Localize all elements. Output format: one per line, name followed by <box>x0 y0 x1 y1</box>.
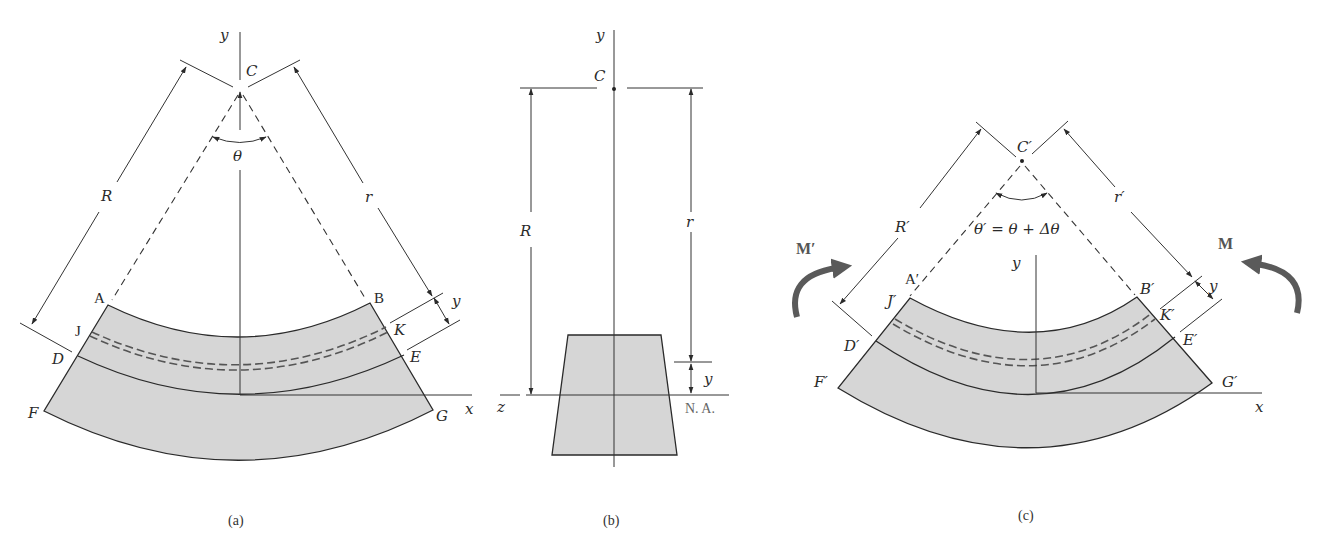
z-axis-label: z <box>496 398 505 416</box>
panel-b: y C R r y z N. A. (b) <box>496 26 729 529</box>
point-label-D: D <box>51 350 64 368</box>
angle-theta-arc <box>213 137 266 143</box>
dim-r-a-top <box>294 67 363 183</box>
moment-label-m-prime: M′ <box>796 240 816 257</box>
curved-beam-figure: y C θ R r y A B J K D E F G x (a) <box>0 0 1332 540</box>
center-point-c-prime <box>1020 159 1024 163</box>
neutral-axis-label: N. A. <box>685 401 715 416</box>
ext-line-e <box>407 320 460 350</box>
point-label-J: J <box>75 323 81 339</box>
point-label-K: K <box>393 321 406 339</box>
dim-label-rprime: r′ <box>1114 188 1125 206</box>
panel-c: C′ R′ r′ θ′ = θ + Δθ M′ M y y A′ B′ J′ K… <box>795 121 1299 524</box>
radial-line-ca <box>112 95 238 300</box>
angle-label-theta: θ <box>233 147 242 165</box>
dim-r-a-bottom <box>378 208 432 296</box>
dim-y-a <box>434 298 449 324</box>
panel-a: y C θ R r y A B J K D E F G x (a) <box>20 26 474 529</box>
y-axis-label-c: y <box>1011 254 1021 272</box>
ext-line-d <box>20 323 72 352</box>
dim-R-a-bottom <box>32 212 99 324</box>
ext-line-eprime <box>1180 299 1222 332</box>
ext-line-cprime-right <box>1032 121 1068 154</box>
x-axis-label-a: x <box>465 400 474 418</box>
dim-label-Rprime: R′ <box>894 218 910 236</box>
point-label-D-prime: D′ <box>843 337 860 355</box>
dim-label-y-b: y <box>703 370 713 388</box>
angle-theta-prime-arc <box>996 193 1047 200</box>
center-label-c-prime: C′ <box>1017 138 1032 156</box>
moment-arrow-m <box>1257 264 1299 313</box>
dim-label-R-a: R <box>100 187 112 205</box>
moment-arrow-m-prime <box>795 268 836 317</box>
y-axis-label-b: y <box>595 26 605 44</box>
moment-label-m: M <box>1218 235 1233 252</box>
caption-a: (a) <box>228 513 244 529</box>
dim-Rprime-top <box>920 129 981 208</box>
x-axis-label-c: x <box>1255 398 1264 416</box>
ext-line-c-left <box>180 60 233 87</box>
y-axis-label-a: y <box>219 26 229 44</box>
point-label-E-prime: E′ <box>1182 331 1198 349</box>
curved-beam-section-a <box>44 303 433 460</box>
dim-label-y-c: y <box>1208 277 1218 295</box>
ext-line-dprime <box>832 301 872 336</box>
dim-label-r-a: r <box>365 188 373 206</box>
center-label-c-b: C <box>594 67 606 85</box>
point-label-A-prime: A′ <box>905 271 919 287</box>
radial-line-cb <box>243 95 365 298</box>
dim-label-y-a: y <box>451 292 461 310</box>
center-point-c-b <box>612 87 616 91</box>
point-label-G-prime: G′ <box>1222 373 1238 391</box>
ext-line-kprime <box>1160 276 1202 309</box>
center-label-c-a: C <box>246 62 258 80</box>
dim-rprime-top <box>1064 129 1115 187</box>
point-label-K-prime: K′ <box>1159 306 1175 324</box>
point-label-A: A <box>94 290 105 306</box>
caption-c: (c) <box>1018 508 1034 524</box>
ext-line-cprime-left <box>976 122 1016 157</box>
dim-rprime-bottom <box>1131 212 1192 277</box>
point-label-J-prime: J′ <box>884 292 897 310</box>
point-label-F: F <box>27 404 39 422</box>
point-label-G: G <box>436 407 448 425</box>
curved-beam-section-c <box>838 297 1212 448</box>
point-label-F-prime: F′ <box>813 373 828 391</box>
dim-label-r-b: r <box>686 213 694 231</box>
point-label-B: B <box>374 290 384 306</box>
point-label-B-prime: B′ <box>1139 280 1155 298</box>
point-label-E: E <box>409 348 421 366</box>
ext-line-k <box>390 293 443 323</box>
caption-b: (b) <box>603 513 620 529</box>
dim-label-R-b: R <box>519 222 531 240</box>
angle-label-theta-prime: θ′ = θ + Δθ <box>974 220 1060 238</box>
dim-R-a-top <box>117 67 186 182</box>
